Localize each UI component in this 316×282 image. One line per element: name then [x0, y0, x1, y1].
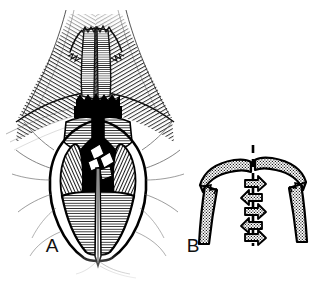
- panel-a-label: A: [46, 235, 59, 256]
- figure-illustration: A: [0, 0, 316, 282]
- midline-suture-line: [95, 168, 101, 266]
- figure-root: A: [0, 0, 316, 282]
- interdigitating-arrows: [241, 176, 266, 245]
- panel-b-label: B: [187, 235, 200, 256]
